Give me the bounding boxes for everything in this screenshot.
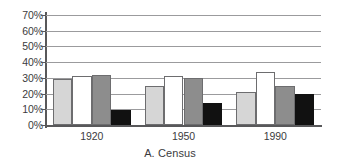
y-axis-tick-mark [41, 94, 45, 95]
bar [111, 110, 130, 125]
gridline [46, 62, 321, 63]
bar [275, 86, 294, 125]
y-axis-tick-mark [41, 62, 45, 63]
y-axis-tick-mark [41, 46, 45, 47]
y-axis-tick-label: 60% [22, 25, 43, 37]
bar [295, 94, 314, 125]
gridline [46, 31, 321, 32]
y-axis-tick-label: 20% [22, 88, 43, 100]
plot-area [46, 15, 321, 125]
y-axis-tick-mark [41, 109, 45, 110]
bar [184, 78, 203, 125]
y-axis-tick-label: 40% [22, 56, 43, 68]
x-axis-tick-label: 1920 [80, 130, 103, 142]
bar [72, 76, 91, 125]
y-axis-tick-label: 50% [22, 40, 43, 52]
y-axis-tick-label: 30% [22, 72, 43, 84]
x-axis-tick-label: 1990 [264, 130, 287, 142]
chart-figure: 0%10%20%30%40%50%60%70% 192019501990 A. … [0, 0, 340, 168]
y-axis-tick-label: 10% [22, 103, 43, 115]
bar [145, 86, 164, 125]
bar [53, 79, 72, 125]
bar [164, 76, 183, 125]
y-axis-tick-mark [41, 15, 45, 16]
x-axis-line [45, 125, 322, 127]
x-axis-tick-label: 1950 [172, 130, 195, 142]
gridline [46, 46, 321, 47]
bar [203, 103, 222, 125]
bar [92, 75, 111, 125]
chart-caption: A. Census [0, 147, 340, 159]
y-axis-tick-mark [41, 125, 45, 126]
gridline [46, 15, 321, 16]
y-axis-tick-mark [41, 31, 45, 32]
y-axis-tick-mark [41, 78, 45, 79]
y-axis-tick-label: 70% [22, 9, 43, 21]
bar [256, 72, 275, 125]
bar [236, 92, 255, 125]
